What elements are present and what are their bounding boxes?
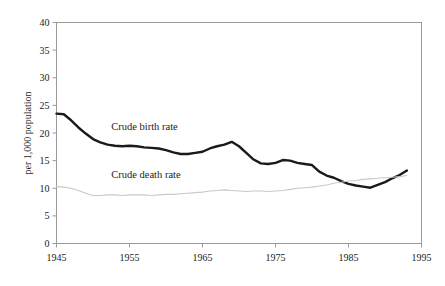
y-tick-label: 0: [45, 238, 50, 249]
x-tick-label: 1975: [266, 252, 286, 263]
x-tick-label: 1995: [412, 252, 432, 263]
x-tick-label: 1955: [120, 252, 140, 263]
y-tick-label: 15: [40, 155, 50, 166]
chart-container: 0510152025303540 19451955196519751985199…: [0, 0, 445, 286]
y-tick-label: 5: [45, 210, 50, 221]
x-tick-label: 1965: [193, 252, 213, 263]
series-label-crude-death-rate: Crude death rate: [111, 169, 181, 180]
y-tick-label: 20: [40, 128, 50, 139]
y-tick-label: 35: [40, 45, 50, 56]
y-tick-label: 25: [40, 100, 50, 111]
line-chart: 0510152025303540 19451955196519751985199…: [0, 0, 445, 286]
y-axis-title: per 1,000 population: [22, 91, 33, 174]
x-tick-label: 1985: [339, 252, 359, 263]
series-label-crude-birth-rate: Crude birth rate: [111, 121, 178, 132]
y-axis-title-group: per 1,000 population: [22, 91, 33, 174]
x-tick-label: 1945: [47, 252, 67, 263]
y-tick-label: 40: [40, 17, 50, 28]
y-tick-label: 30: [40, 72, 50, 83]
y-tick-label: 10: [40, 183, 50, 194]
